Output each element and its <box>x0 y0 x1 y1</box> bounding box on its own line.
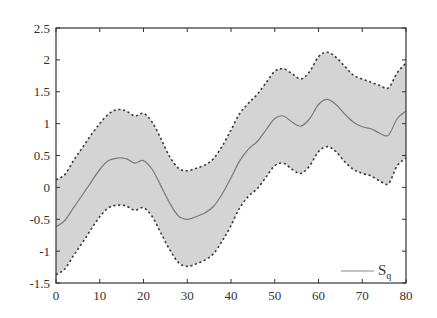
chart: 01020304050607080 -1.5-1-0.500.511.522.5… <box>0 0 437 318</box>
plot-area <box>56 52 406 275</box>
x-tick-label: 30 <box>181 288 194 303</box>
y-tick-label: -1.5 <box>29 276 50 291</box>
y-tick-label: 1 <box>44 116 51 131</box>
x-tick-label: 70 <box>356 288 369 303</box>
x-tick-label: 20 <box>137 288 150 303</box>
legend-label: Sq <box>378 262 391 281</box>
x-tick-label: 40 <box>225 288 238 303</box>
y-tick-label: 0 <box>44 180 51 195</box>
y-tick-label: 2.5 <box>34 21 50 36</box>
y-tick-label: -1 <box>39 244 50 259</box>
y-tick-label: 2 <box>44 52 51 67</box>
x-tick-label: 0 <box>53 288 60 303</box>
x-tick-label: 50 <box>268 288 281 303</box>
y-tick-label: 1.5 <box>34 84 50 99</box>
legend: Sq <box>341 262 391 281</box>
x-tick-label: 80 <box>400 288 413 303</box>
x-tick-label: 10 <box>93 288 106 303</box>
confidence-band <box>56 52 406 275</box>
y-tick-label: -0.5 <box>29 212 50 227</box>
x-tick-label: 60 <box>312 288 325 303</box>
y-tick-label: 0.5 <box>34 148 50 163</box>
